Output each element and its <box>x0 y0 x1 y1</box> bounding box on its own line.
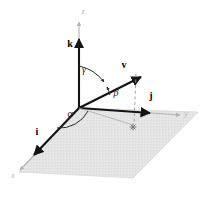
unit-vector-label-i: i <box>36 126 39 137</box>
figure-canvas: z y x k j i v γ β α <box>0 0 201 198</box>
angle-label-alpha: α <box>67 108 73 119</box>
angle-label-gamma: γ <box>82 64 87 75</box>
axis-label-x: x <box>10 171 15 180</box>
vector-direction-angles-figure: z y x k j i v γ β α <box>0 0 201 198</box>
angle-label-beta: β <box>113 87 119 98</box>
vector-v <box>79 77 141 108</box>
unit-vector-label-j: j <box>148 90 152 101</box>
axis-label-z: z <box>80 7 85 16</box>
axis-label-y: y <box>183 109 188 118</box>
unit-vector-label-k: k <box>67 38 73 49</box>
vector-label-v: v <box>122 59 127 70</box>
